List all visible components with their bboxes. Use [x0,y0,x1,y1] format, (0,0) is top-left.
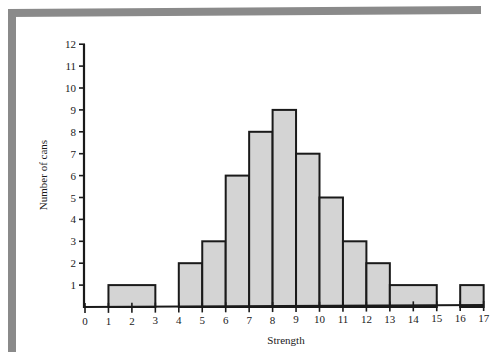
histogram-bar [273,110,296,307]
y-tick-label: 9 [71,104,77,116]
x-tick-label: 10 [314,313,326,325]
y-tick-label: 1 [71,279,77,291]
histogram-bar [202,241,225,307]
x-tick-label: 6 [223,314,229,326]
y-tick-label: 10 [65,82,77,94]
x-tick-label: 15 [431,312,443,324]
x-tick-label: 1 [106,315,112,327]
histogram-bar [366,263,389,307]
x-tick-label: 16 [455,312,467,324]
y-tick-label: 2 [71,257,77,269]
x-tick-label: 13 [384,313,396,325]
y-tick-label: 6 [71,170,77,182]
histogram-bar [226,176,249,307]
x-tick-label: 14 [408,313,420,325]
x-tick-label: 0 [82,315,88,327]
histogram-bar [296,154,319,307]
y-tick-label: 11 [65,60,76,72]
x-tick-label: 5 [200,314,206,326]
y-tick-label: 4 [71,213,77,225]
y-tick-label: 7 [71,148,77,160]
histogram-bar [320,198,343,308]
y-axis-title: Number of cans [37,140,49,210]
histogram-bar [249,132,272,307]
x-tick-label: 7 [246,314,252,326]
x-axis-title: Strength [267,334,305,346]
histogram-bar [343,241,366,307]
histogram-bar [460,285,483,307]
x-tick-label: 17 [478,312,490,324]
x-tick-label: 12 [361,313,372,325]
x-tick-label: 8 [270,314,276,326]
y-tick-label: 3 [71,235,77,247]
y-tick-label: 8 [71,126,77,138]
histogram-chart: 123456789101112 012345678910111213141516… [0,0,501,364]
histogram-bar [179,263,202,307]
y-tick-label: 5 [71,192,77,204]
histogram-bars [108,110,483,307]
y-axis-ticks: 123456789101112 [65,38,85,291]
x-tick-label: 4 [176,314,182,326]
x-tick-label: 2 [129,315,135,327]
x-tick-label: 3 [153,314,159,326]
x-tick-label: 11 [338,313,349,325]
y-tick-label: 12 [65,38,76,50]
x-tick-label: 9 [293,313,299,325]
